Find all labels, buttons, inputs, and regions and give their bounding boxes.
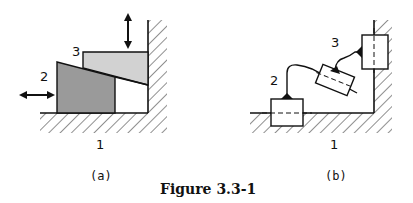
- link-3: [335, 52, 362, 70]
- figure-canvas: 3 2 1 (a) 3 2 1 (b) Figure 3.3-1: [0, 0, 413, 203]
- vertical-motion-arrow-icon: [124, 13, 132, 49]
- label-wedge: 2: [270, 73, 278, 88]
- panel-a: 3 2 1 (a): [19, 13, 167, 183]
- label-slider: 3: [72, 44, 80, 59]
- wall-hatch: [148, 20, 167, 113]
- label-slider: 3: [331, 35, 339, 50]
- sublabel-a: (a): [90, 169, 112, 183]
- figure-caption: Figure 3.3-1: [160, 181, 256, 197]
- joint-weld-icon: [281, 93, 293, 99]
- ground-hatch: [40, 113, 167, 133]
- sublabel-b: (b): [325, 169, 347, 183]
- label-ground: 1: [96, 137, 104, 152]
- panel-b: 3 2 1 (b): [250, 20, 392, 183]
- horizontal-motion-arrow-icon: [19, 91, 55, 99]
- wall-slider-block: [362, 35, 388, 69]
- joint-weld-icon: [356, 46, 362, 58]
- label-wedge: 2: [40, 69, 48, 84]
- label-ground: 1: [330, 137, 338, 152]
